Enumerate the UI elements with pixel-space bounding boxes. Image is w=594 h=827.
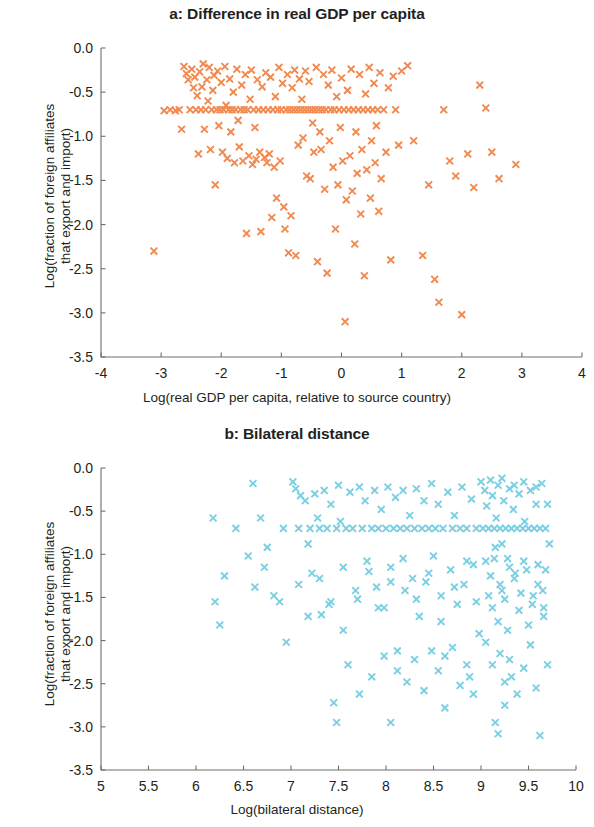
- data-point-marker: [489, 492, 496, 499]
- data-point-marker: [354, 596, 361, 603]
- data-point-marker: [201, 126, 208, 133]
- data-point-marker: [205, 98, 212, 105]
- x-tick-label: -3: [155, 365, 168, 381]
- data-point-marker: [411, 656, 418, 663]
- data-point-marker: [214, 68, 221, 75]
- data-point-marker: [485, 592, 492, 599]
- data-point-marker: [423, 579, 430, 586]
- data-point-marker: [387, 579, 394, 586]
- data-point-marker: [231, 159, 238, 166]
- data-point-marker: [390, 525, 397, 532]
- data-point-marker: [431, 276, 438, 283]
- data-point-marker: [309, 120, 316, 127]
- panel-b-plot: 0.0-0.5-1.0-1.5-2.0-2.5-3.0-3.555.566.57…: [0, 410, 594, 827]
- data-point-marker: [190, 84, 197, 91]
- data-point-marker: [390, 73, 397, 80]
- data-point-marker: [392, 106, 399, 113]
- data-point-marker: [342, 318, 349, 325]
- x-tick-label: 5.5: [139, 778, 159, 794]
- x-tick-label: 8.5: [424, 778, 444, 794]
- data-point-marker: [340, 627, 347, 634]
- data-point-marker: [296, 76, 303, 83]
- data-point-marker: [362, 497, 369, 504]
- scatter-series: [210, 475, 553, 739]
- data-point-marker: [161, 107, 168, 114]
- data-point-marker: [458, 311, 465, 318]
- data-point-marker: [495, 618, 502, 625]
- data-point-marker: [493, 515, 500, 522]
- data-point-marker: [261, 564, 268, 571]
- data-point-marker: [452, 173, 459, 180]
- data-point-marker: [276, 64, 283, 71]
- data-point-marker: [518, 590, 525, 597]
- data-point-marker: [495, 482, 502, 489]
- data-point-marker: [387, 564, 394, 571]
- data-point-marker: [215, 122, 222, 129]
- data-point-marker: [290, 478, 297, 485]
- data-point-marker: [216, 622, 223, 629]
- data-point-marker: [387, 256, 394, 263]
- data-point-marker: [313, 64, 320, 71]
- data-point-marker: [421, 497, 428, 504]
- data-point-marker: [457, 682, 464, 689]
- data-point-marker: [492, 544, 499, 551]
- x-tick-label: 6.5: [234, 778, 254, 794]
- data-point-marker: [242, 71, 249, 78]
- data-point-marker: [252, 584, 259, 591]
- x-tick-label: 1: [398, 365, 406, 381]
- data-point-marker: [292, 252, 299, 259]
- data-point-marker: [227, 128, 234, 135]
- data-point-marker: [324, 525, 331, 532]
- data-point-marker: [212, 181, 219, 188]
- y-tick-label: -3.0: [69, 719, 93, 735]
- data-point-marker: [233, 66, 240, 73]
- data-point-marker: [305, 541, 312, 548]
- panel-a-plot: 0.0-0.5-1.0-1.5-2.0-2.5-3.0-3.5-4-3-2-10…: [0, 0, 594, 420]
- data-point-marker: [516, 490, 523, 497]
- data-point-marker: [284, 71, 291, 78]
- y-tick-label: -1.5: [69, 589, 93, 605]
- y-tick-label: -0.5: [69, 84, 93, 100]
- data-point-marker: [333, 719, 340, 726]
- data-point-marker: [425, 525, 432, 532]
- data-point-marker: [328, 598, 335, 605]
- data-point-marker: [206, 64, 213, 71]
- data-point-marker: [230, 89, 237, 96]
- x-tick-label: 9.5: [519, 778, 539, 794]
- data-point-marker: [544, 501, 551, 508]
- data-point-marker: [406, 512, 413, 519]
- data-point-marker: [381, 653, 388, 660]
- data-point-marker: [210, 515, 217, 522]
- data-point-marker: [195, 151, 202, 158]
- data-point-marker: [527, 641, 534, 648]
- data-point-marker: [501, 702, 508, 709]
- data-point-marker: [444, 489, 451, 496]
- data-point-marker: [537, 732, 544, 739]
- data-point-marker: [473, 525, 480, 532]
- data-point-marker: [200, 60, 207, 67]
- data-point-marker: [542, 525, 549, 532]
- data-point-marker: [203, 76, 210, 83]
- data-point-marker: [295, 581, 302, 588]
- x-tick-label: 7: [287, 778, 295, 794]
- data-point-marker: [337, 518, 344, 525]
- data-point-marker: [264, 544, 271, 551]
- data-point-marker: [482, 105, 489, 112]
- data-point-marker: [276, 598, 283, 605]
- data-point-marker: [530, 592, 537, 599]
- data-point-marker: [292, 485, 299, 492]
- panel-a-x-axis-label: Log(real GDP per capita, relative to sou…: [0, 390, 594, 405]
- data-point-marker: [273, 195, 280, 202]
- data-point-marker: [363, 166, 370, 173]
- data-point-marker: [316, 128, 323, 135]
- data-point-marker: [238, 82, 245, 89]
- data-point-marker: [347, 489, 354, 496]
- data-point-marker: [258, 228, 265, 235]
- x-tick-label: 9: [477, 778, 485, 794]
- data-point-marker: [332, 226, 339, 233]
- data-point-marker: [340, 564, 347, 571]
- data-point-marker: [309, 570, 316, 577]
- data-point-marker: [356, 484, 363, 491]
- data-point-marker: [291, 67, 298, 74]
- data-point-marker: [514, 691, 521, 698]
